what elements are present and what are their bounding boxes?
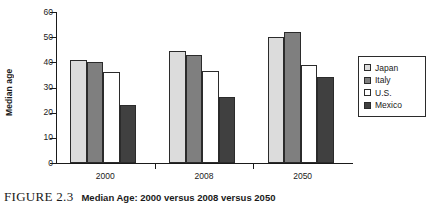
chart-legend: JapanItalyU.S.Mexico — [358, 56, 426, 117]
bar-italy-2000 — [87, 62, 104, 163]
plot-area — [56, 12, 352, 163]
legend-item-japan: Japan — [364, 62, 421, 74]
y-axis-tick-label: 20 — [44, 107, 53, 118]
legend-swatch-icon — [364, 89, 371, 96]
y-axis-tick-label: 60 — [44, 7, 53, 18]
legend-swatch-icon — [364, 102, 371, 109]
x-axis-line — [56, 163, 353, 164]
legend-item-label: Italy — [375, 75, 391, 85]
bar-mexico-2000 — [120, 105, 137, 163]
x-axis-label-2008: 2008 — [155, 171, 254, 182]
bar-italy-2008 — [186, 55, 203, 163]
legend-item-mexico: Mexico — [364, 99, 421, 111]
y-axis-label: Median age — [2, 52, 16, 132]
legend-item-label: Japan — [375, 63, 398, 73]
y-axis-tick-label: 30 — [44, 82, 53, 93]
x-axis-label-2000: 2000 — [56, 171, 155, 182]
x-axis-group-separator — [155, 163, 156, 169]
legend-swatch-icon — [364, 64, 371, 71]
legend-item-us: U.S. — [364, 87, 421, 99]
bar-japan-2008 — [169, 51, 186, 163]
legend-item-italy: Italy — [364, 74, 421, 86]
bar-us-2050 — [301, 65, 318, 163]
bar-italy-2050 — [284, 32, 301, 163]
bar-mexico-2008 — [219, 97, 236, 163]
bar-us-2000 — [103, 72, 120, 163]
figure-container: Median age 0102030405060 200020082050 Ja… — [0, 0, 432, 210]
bar-japan-2000 — [70, 60, 87, 163]
y-axis-tick-label: 10 — [44, 132, 53, 143]
legend-item-label: Mexico — [375, 100, 402, 110]
figure-caption: FIGURE 2.3 Median Age: 2000 versus 2008 … — [4, 189, 428, 205]
legend-swatch-icon — [364, 77, 371, 84]
y-axis-tick-label: 40 — [44, 57, 53, 68]
legend-item-label: U.S. — [375, 88, 392, 98]
bar-us-2008 — [202, 71, 219, 163]
x-axis-group-separator — [253, 163, 254, 169]
figure-caption-title: Median Age: 2000 versus 2008 versus 2050 — [81, 192, 275, 203]
y-axis-tick-label: 0 — [48, 158, 53, 169]
bar-mexico-2050 — [317, 77, 334, 163]
x-axis-label-2050: 2050 — [253, 171, 352, 182]
figure-number: FIGURE 2.3 — [4, 189, 73, 205]
y-axis-tick-label: 50 — [44, 32, 53, 43]
bar-japan-2050 — [268, 37, 285, 163]
